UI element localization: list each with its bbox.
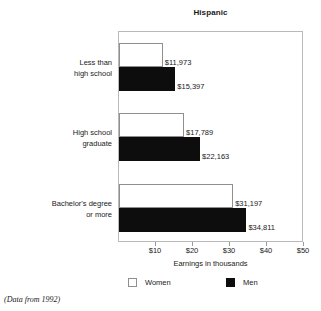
category-label-less-than-high-school: Less than high school [8, 58, 112, 79]
x-axis-tick-label: $40 [246, 246, 286, 255]
category-label-line: graduate [8, 139, 112, 150]
category-label-line: high school [8, 69, 112, 80]
footnote: (Data from 1992) [4, 295, 60, 304]
x-axis-tick-label: $30 [209, 246, 249, 255]
category-label-high-school-graduate: High school graduate [8, 128, 112, 149]
legend-item-women: Women [128, 278, 171, 287]
chart-legend: Women Men [118, 278, 303, 290]
bar-group-less-than-high-school: $11,973 $15,397 [119, 32, 302, 102]
chart-title: Hispanic [118, 8, 303, 17]
x-axis-label: Earnings in thousands [118, 259, 303, 268]
bar-group-bachelors-degree-or-more: $31,197 $34,811 [119, 173, 302, 243]
x-axis-tick-label: $50 [283, 246, 321, 255]
category-label-line: Less than [8, 58, 112, 69]
category-label-line: High school [8, 128, 112, 139]
bar-men: $22,163 [119, 137, 200, 161]
bar-value-label: $31,197 [232, 200, 262, 208]
plot-area: $11,973 $15,397 $17,789 $22,163 $31,197 … [118, 31, 303, 242]
x-axis-tick-label: $20 [172, 246, 212, 255]
bar-men: $34,811 [119, 208, 246, 232]
bar-women: $17,789 [119, 113, 184, 137]
legend-swatch-women-icon [128, 278, 137, 287]
bar-women: $31,197 [119, 184, 233, 208]
bar-group-high-school-graduate: $17,789 $22,163 [119, 102, 302, 172]
bar-value-label: $11,973 [162, 59, 192, 67]
bar-value-label: $17,789 [183, 129, 213, 137]
x-axis-tick-label: $10 [135, 246, 175, 255]
legend-label-men: Men [243, 278, 258, 287]
bar-women: $11,973 [119, 43, 163, 67]
bar-men: $15,397 [119, 67, 175, 91]
legend-label-women: Women [145, 278, 171, 287]
category-label-bachelors-degree-or-more: Bachelor's degree or more [8, 199, 112, 220]
chart-figure: Hispanic Less than high school High scho… [0, 0, 321, 311]
legend-item-men: Men [226, 278, 258, 287]
bar-value-label: $15,397 [174, 83, 204, 91]
category-label-line: or more [8, 210, 112, 221]
bar-value-label: $34,811 [245, 224, 275, 232]
bar-value-label: $22,163 [199, 153, 229, 161]
category-label-line: Bachelor's degree [8, 199, 112, 210]
legend-swatch-men-icon [226, 278, 235, 287]
